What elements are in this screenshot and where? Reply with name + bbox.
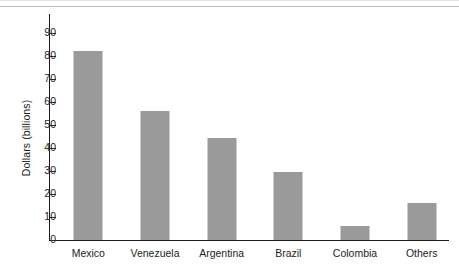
- category-label-others: Others: [377, 247, 459, 259]
- y-tick-mark: [50, 240, 56, 241]
- bar-group: [322, 14, 389, 240]
- bar-others: [407, 203, 436, 240]
- bar-group: [55, 14, 122, 240]
- bar-brazil: [274, 172, 303, 240]
- page-horizontal-rule: [0, 6, 459, 7]
- bar-group: [388, 14, 455, 240]
- bar-colombia: [340, 226, 369, 240]
- bar-group: [122, 14, 189, 240]
- bar-mexico: [74, 51, 103, 240]
- bar-venezuela: [140, 111, 169, 240]
- bar-group: [255, 14, 322, 240]
- x-axis-line: [49, 240, 449, 241]
- bar-series: [49, 14, 449, 240]
- bar-chart-figure: Dollars (billions) 0102030405060708090 M…: [0, 0, 459, 269]
- page-top-edge: [0, 0, 459, 1]
- bar-argentina: [207, 138, 236, 240]
- bar-group: [188, 14, 255, 240]
